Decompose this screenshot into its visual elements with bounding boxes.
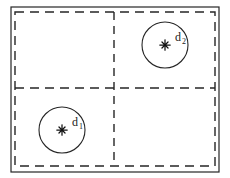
partitioned-region-diagram: d 1 d 2 (0, 0, 230, 178)
diagram-background (0, 0, 230, 178)
point-label-d2: d (175, 30, 181, 44)
point-subscript-d1: 1 (79, 122, 83, 131)
point-subscript-d2: 2 (182, 37, 186, 46)
diagram-canvas: d 1 d 2 (0, 0, 230, 178)
point-label-d1: d (72, 115, 78, 129)
